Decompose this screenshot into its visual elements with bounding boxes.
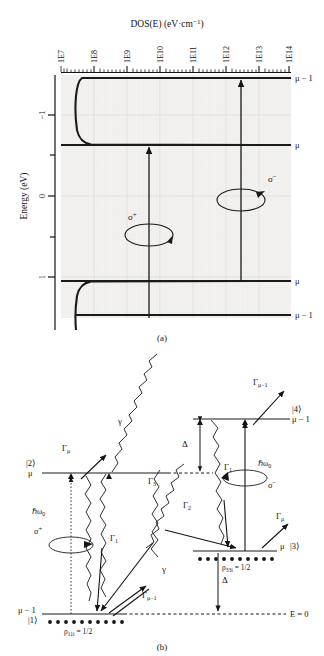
state-4-energy: μ − 1	[292, 414, 310, 424]
gamma-2-label: Γ2	[183, 500, 191, 511]
gamma-mu-upper-left-label: Γμ	[62, 443, 70, 454]
gamma-top-wavy	[112, 354, 157, 472]
state-2-energy: μ	[28, 468, 33, 478]
excite-marker-state-4-left	[197, 419, 203, 425]
delta-upper-label: Δ	[182, 439, 188, 449]
delta-lower-label: Δ	[222, 575, 228, 585]
label-mu-lower: μ	[295, 276, 300, 286]
state-1-ket: |1⟩	[28, 615, 38, 625]
panel-a: DOS(E) (eV·cm−1) 1E7 1E8 1E9 1E10 1E11 1…	[19, 18, 313, 343]
panel-a-top-axis-title: DOS(E) (eV·cm−1)	[130, 18, 203, 30]
x-tick-1E12: 1E12	[222, 46, 231, 63]
gamma-mu-minus-1-top-arrow	[253, 391, 284, 425]
rho-11-label: ρ11i = 1/2	[64, 627, 92, 637]
excite-marker-state-2-right	[106, 473, 112, 479]
gamma-bottom-label: γ	[161, 564, 166, 574]
panel-a-caption: (a)	[157, 333, 167, 343]
population-dots-state-1	[48, 620, 124, 624]
gamma-1-left-label: Γ1	[110, 533, 118, 544]
x-tick-1E14: 1E14	[285, 46, 294, 63]
excite-marker-state-2-left	[68, 473, 74, 479]
x-tick-1E7: 1E7	[57, 50, 66, 63]
panel-a-left-axis-title: Energy (eV)	[19, 172, 30, 219]
label-mu-minus-1-top: μ − 1	[295, 73, 313, 83]
panel-a-y-axis	[48, 75, 55, 330]
panel-a-level-labels: μ − 1 μ μ μ − 1	[295, 73, 313, 320]
state-1-energy: μ − 1	[18, 605, 36, 615]
axis-title-main: DOS(E) (eV·cm	[130, 19, 193, 30]
panel-a-x-tick-labels: 1E7 1E8 1E9 1E10 1E11 1E12 1E13 1E14	[57, 46, 294, 63]
zero-energy-label: E = 0	[290, 609, 309, 619]
state-2-ket: |2⟩	[26, 458, 36, 468]
gamma-1-left-decay-arrow	[97, 548, 102, 611]
panel-b-caption: (b)	[157, 642, 168, 652]
label-mu-minus-1-bottom: μ − 1	[295, 310, 313, 320]
x-tick-1E8: 1E8	[90, 50, 99, 63]
gamma-2-decay-arrow	[165, 530, 236, 548]
gamma-3-decay-arrow	[101, 543, 153, 611]
sigma-plus-label-b: σ+	[34, 525, 43, 536]
figure-svg: DOS(E) (eV·cm−1) 1E7 1E8 1E9 1E10 1E11 1…	[0, 0, 324, 656]
gamma-3-wavy	[100, 474, 106, 597]
x-tick-1E9: 1E9	[123, 50, 132, 63]
hbar-omega-left-label: ℏω0	[32, 507, 45, 517]
sigma-minus-label-b: σ−	[268, 479, 277, 490]
y-tick-minus1: −1	[37, 110, 47, 119]
rho-33-label: ρ33i = 1/2	[222, 563, 251, 573]
x-tick-1E13: 1E13	[255, 46, 264, 63]
panel-a-y-tick-labels: −1 0 1	[37, 110, 47, 279]
y-tick-0: 0	[37, 194, 47, 198]
panel-b-rate-labels: Γμ Γμ−1 Γμ Γμ−1 Γ1 Γ1 Γ2 Γ3 γ γ	[62, 377, 284, 601]
panel-b: |2⟩ μ |4⟩ μ − 1 μ |3⟩ μ − 1 |1⟩ E = 0 ρ1…	[18, 354, 310, 652]
x-tick-1E11: 1E11	[189, 46, 198, 63]
panel-b-state-labels: |2⟩ μ |4⟩ μ − 1 μ |3⟩ μ − 1 |1⟩ E = 0	[18, 404, 310, 625]
gamma-1-left-wavy	[85, 476, 91, 601]
sigma-minus-ellipse-b-arrowhead	[221, 472, 229, 481]
gamma-mu-upper-arrow	[81, 455, 106, 479]
gamma-mu-minus-1-bottom-arrow-1	[109, 586, 146, 613]
panel-a-top-tick-rail	[61, 66, 291, 73]
x-tick-1E10: 1E10	[156, 46, 165, 63]
label-mu-upper: μ	[295, 140, 300, 150]
figure-container: DOS(E) (eV·cm−1) 1E7 1E8 1E9 1E10 1E11 1…	[0, 0, 324, 656]
excite-marker-state-4-right	[242, 419, 248, 425]
gamma-top-label: γ	[117, 416, 122, 426]
state-4-ket: |4⟩	[292, 404, 302, 414]
state-3-energy: μ	[280, 541, 285, 551]
population-dots-state-3	[198, 557, 274, 561]
gamma-mu-minus-1-bottom-label: Γμ−1	[142, 590, 157, 601]
gamma-mu-minus-1-top-right-label: Γμ−1	[253, 377, 268, 388]
gamma-1-right-decay-arrow	[224, 500, 228, 547]
state-3-ket: |3⟩	[290, 541, 300, 551]
gamma-1-right-wavy	[211, 420, 224, 544]
gamma-1-right-label: Γ1	[224, 462, 232, 473]
y-tick-1: 1	[37, 275, 47, 279]
gamma-mu-right-label: Γμ	[276, 511, 284, 522]
hbar-omega-right-label: ℏω0	[258, 459, 271, 469]
